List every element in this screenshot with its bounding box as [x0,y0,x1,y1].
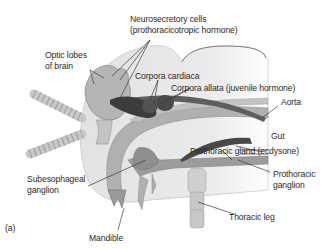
label-neurosecretory-hormone: (prothoracicotropic hormone) [130,25,238,35]
label-prothoracic-gland: Prothoracic gland (ecdysone) [190,146,299,156]
label-subesophageal: Subesophageal [27,174,85,184]
panel-label: (a) [5,223,15,233]
label-optic-brain: of brain [45,61,73,71]
label-thoracic-leg: Thoracic leg [229,212,275,222]
antenna-upper-icon [34,94,82,118]
label-subesophageal-ganglion: ganglion [27,185,59,195]
label-corpora-allata: Corpora allata (juvenile hormone) [171,83,295,93]
label-corpora-cardiaca: Corpora cardiaca [135,71,199,81]
label-gut: Gut [271,131,285,141]
thoracic-leg [188,168,206,228]
label-optic-lobes: Optic lobes [45,50,87,60]
label-mandible: Mandible [89,233,123,243]
antenna-lower-icon [30,134,82,154]
label-aorta: Aorta [281,97,301,107]
label-neurosecretory-cells: Neurosecretory cells [130,14,206,24]
insect-endocrine-diagram: Neurosecretory cells (prothoracicotropic… [0,0,333,249]
diagram-illustration [0,0,333,249]
label-prothoracic: Prothoracic [273,169,315,179]
label-prothoracic-ganglion: ganglion [273,180,305,190]
corpora-allata [156,95,174,111]
